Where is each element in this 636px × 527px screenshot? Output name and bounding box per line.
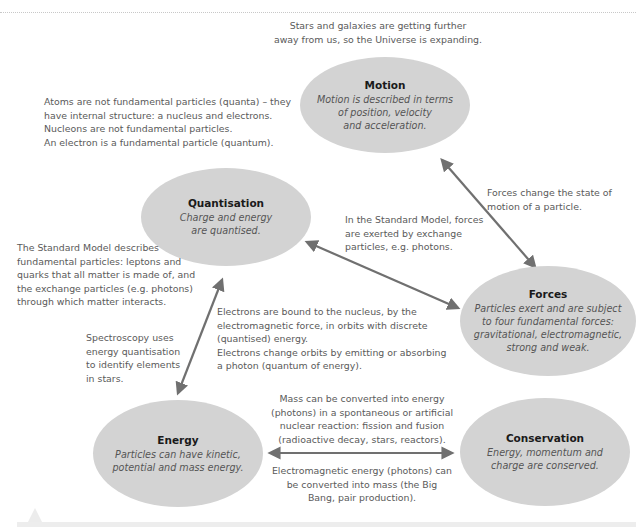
node-conservation: Conservation Energy, momentum and charge… <box>460 398 630 506</box>
footer-triangle-decoration <box>28 508 42 522</box>
note-atoms: Atoms are not fundamental particles (qua… <box>44 95 304 149</box>
node-energy-title: Energy <box>157 434 198 446</box>
note-mass-to-energy: Mass can be converted into energy (photo… <box>262 392 462 446</box>
note-universe-expanding: Stars and galaxies are getting further a… <box>238 19 518 46</box>
node-quantisation-description: Charge and energy are quantised. <box>180 211 272 237</box>
note-energy-to-mass: Electromagnetic energy (photons) can be … <box>262 464 462 505</box>
footer-bar <box>17 522 636 527</box>
node-quantisation-title: Quantisation <box>188 197 264 209</box>
node-forces-description: Particles exert and are subject to four … <box>474 302 622 354</box>
note-forces-change-motion: Forces change the state of motion of a p… <box>487 186 636 213</box>
node-forces: Forces Particles exert and are subject t… <box>460 266 636 376</box>
note-standard-model: The Standard Model describes fundamental… <box>17 241 217 309</box>
node-motion: Motion Motion is described in terms of p… <box>300 57 470 153</box>
node-motion-description: Motion is described in terms of position… <box>317 93 453 132</box>
node-forces-title: Forces <box>529 288 568 300</box>
top-divider <box>0 12 636 13</box>
node-conservation-title: Conservation <box>506 432 584 444</box>
node-motion-title: Motion <box>365 79 406 91</box>
node-conservation-description: Energy, momentum and charge are conserve… <box>487 446 603 472</box>
node-energy-description: Particles can have kinetic, potential an… <box>113 448 244 474</box>
note-electrons-bound: Electrons are bound to the nucleus, by t… <box>217 305 477 373</box>
note-exchange-particles: In the Standard Model, forces are exerte… <box>345 213 505 254</box>
note-spectroscopy: Spectroscopy uses energy quantisation to… <box>86 331 196 385</box>
node-energy: Energy Particles can have kinetic, poten… <box>93 400 263 507</box>
